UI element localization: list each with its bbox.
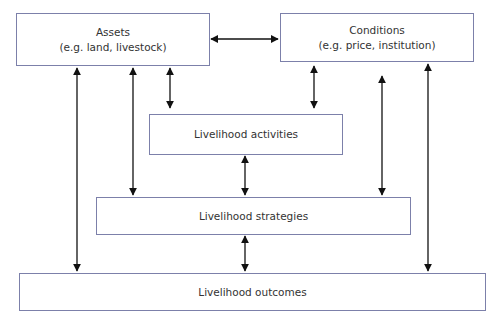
outcomes-title: Livelihood outcomes bbox=[198, 285, 306, 300]
outcomes-box: Livelihood outcomes bbox=[19, 273, 486, 311]
conditions-subtitle: (e.g. price, institution) bbox=[318, 38, 435, 53]
conditions-title: Conditions bbox=[349, 23, 405, 38]
assets-subtitle: (e.g. land, livestock) bbox=[59, 40, 166, 55]
conditions-box: Conditions (e.g. price, institution) bbox=[280, 13, 474, 62]
activities-box: Livelihood activities bbox=[149, 114, 343, 155]
strategies-box: Livelihood strategies bbox=[96, 197, 411, 235]
assets-title: Assets bbox=[96, 25, 130, 40]
strategies-title: Livelihood strategies bbox=[199, 209, 308, 224]
assets-box: Assets (e.g. land, livestock) bbox=[16, 13, 210, 66]
activities-title: Livelihood activities bbox=[194, 127, 298, 142]
